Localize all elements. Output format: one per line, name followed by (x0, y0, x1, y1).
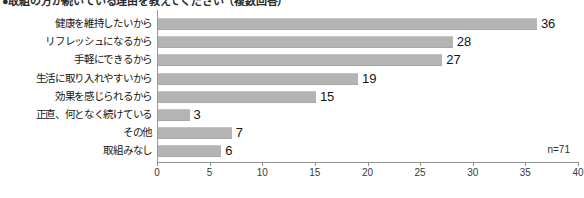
x-axis-tick (368, 162, 369, 166)
bar-row: 27 (158, 54, 579, 66)
sample-size-annotation: n=71 (547, 144, 570, 156)
bar (158, 127, 232, 139)
bar-value-label: 27 (446, 51, 460, 68)
bar-value-label: 15 (320, 88, 334, 105)
bar-row: 7 (158, 127, 579, 139)
x-axis-tick (525, 162, 526, 166)
x-axis-tick-label: 20 (362, 167, 373, 179)
x-axis-tick-label: 25 (415, 167, 426, 179)
bar-row: 6 (158, 145, 579, 157)
bar-value-label: 28 (457, 33, 471, 50)
bar-row: 3 (158, 109, 579, 121)
category-label: 手軽にできるから (0, 53, 152, 65)
x-axis-tick-label: 40 (572, 167, 583, 179)
x-axis-tick-label: 5 (207, 167, 213, 179)
x-axis-tick (210, 162, 211, 166)
bar-row: 19 (158, 73, 579, 85)
bar (158, 109, 190, 121)
bar (158, 91, 316, 103)
x-axis-tick (578, 162, 579, 166)
bar-value-label: 3 (194, 106, 201, 123)
x-axis-tick (315, 162, 316, 166)
category-label: 正直、何となく続けている (0, 108, 152, 120)
x-axis-tick-label: 15 (309, 167, 320, 179)
x-axis-tick (157, 162, 158, 166)
category-axis-labels: 健康を維持したいからリフレッシュになるから手軽にできるから生活に取り入れやすいか… (0, 10, 156, 162)
bar-value-label: 7 (236, 124, 243, 141)
chart-title: ●取組の方が続いている理由を教えてください（複数回答） (2, 0, 288, 7)
category-label: 取組みなし (0, 144, 152, 156)
x-axis-tick-label: 30 (467, 167, 478, 179)
category-label: その他 (0, 126, 152, 138)
category-label: 効果を感じられるから (0, 90, 152, 102)
x-axis-tick-label: 35 (520, 167, 531, 179)
bar (158, 18, 537, 30)
category-label: リフレッシュになるから (0, 35, 152, 47)
bar-series: 3628271915376 (158, 10, 580, 162)
bar (158, 145, 221, 157)
chart-plot-area: 健康を維持したいからリフレッシュになるから手軽にできるから生活に取り入れやすいか… (0, 10, 580, 170)
x-axis-tick-label: 0 (154, 167, 160, 179)
category-label: 健康を維持したいから (0, 17, 152, 29)
x-axis-tick (262, 162, 263, 166)
bar-value-label: 19 (362, 70, 376, 87)
bar (158, 73, 358, 85)
bar-row: 15 (158, 91, 579, 103)
bar (158, 36, 453, 48)
x-axis-tick-label: 10 (257, 167, 268, 179)
bar-row: 36 (158, 18, 579, 30)
bar-value-label: 36 (541, 15, 555, 32)
x-axis-tick (420, 162, 421, 166)
category-label: 生活に取り入れやすいから (0, 72, 152, 84)
x-axis-tick (473, 162, 474, 166)
bar-value-label: 6 (225, 142, 232, 159)
bar (158, 54, 442, 66)
bar-row: 28 (158, 36, 579, 48)
